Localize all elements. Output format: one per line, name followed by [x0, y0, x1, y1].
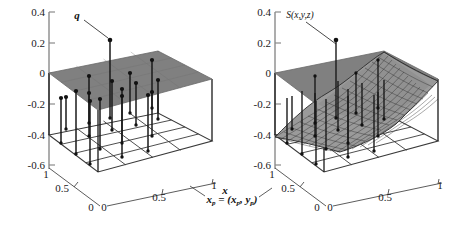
- x-tick-right-1: 0.5: [378, 191, 392, 203]
- z-tick-right-4: -0.4: [254, 129, 272, 141]
- x-tick-left-2: 1: [211, 179, 217, 191]
- y-tick-right-0: 1: [269, 168, 275, 180]
- xp-eq: = (: [216, 193, 233, 206]
- z-tick-left-0: 0.4: [31, 6, 45, 18]
- x-tick-right-0: 0: [327, 201, 333, 213]
- scientific-figure: 0.4 0.2 0 -0.2 -0.4 -0.6: [0, 0, 452, 227]
- x-tick-right-2: 1: [437, 179, 443, 191]
- xp-close: ): [253, 193, 258, 206]
- z-tick-right-3: -0.2: [254, 98, 271, 110]
- y-tick-right-2: 0: [314, 201, 320, 213]
- s-function-label: S(x,y,z): [286, 10, 313, 21]
- z-tick-left-2: 0: [40, 67, 46, 79]
- y-tick-left-0: 1: [43, 168, 49, 180]
- z-tick-left-4: -0.4: [28, 129, 46, 141]
- y-tick-left-1: 0.5: [55, 182, 69, 194]
- z-tick-right-1: 0.2: [257, 37, 271, 49]
- z-tick-right-2: 0: [266, 67, 272, 79]
- x-tick-left-0: 0: [101, 201, 107, 213]
- z-tick-left-1: 0.2: [31, 37, 45, 49]
- y-tick-right-1: 0.5: [281, 182, 295, 194]
- y-tick-left-2: 0: [88, 201, 94, 213]
- x-tick-left-1: 0.5: [152, 191, 166, 203]
- z-tick-left-3: -0.2: [28, 98, 45, 110]
- q-label: q: [74, 9, 80, 21]
- z-tick-right-0: 0.4: [257, 6, 271, 18]
